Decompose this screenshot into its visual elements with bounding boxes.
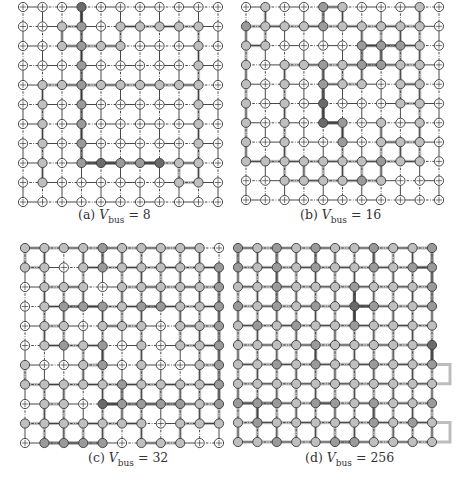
grid-node xyxy=(233,418,242,427)
grid-node xyxy=(427,437,436,446)
grid-node xyxy=(272,282,281,291)
grid-node xyxy=(369,263,378,272)
grid-node xyxy=(253,399,262,408)
grid-node xyxy=(330,263,339,272)
grid-node xyxy=(253,243,262,252)
grid-node xyxy=(233,437,242,446)
grid-node xyxy=(330,360,339,369)
grid-node xyxy=(350,321,359,330)
caption-value: = 8 xyxy=(128,207,150,222)
grid-node xyxy=(369,379,378,388)
grid-node xyxy=(389,399,398,408)
grid-node xyxy=(350,418,359,427)
grid-node xyxy=(253,282,262,291)
caption-sub: bus xyxy=(108,215,124,225)
grid-node xyxy=(253,437,262,446)
grid-node xyxy=(408,379,417,388)
caption-d: (d) Vbus = 256 xyxy=(305,450,394,468)
grid-node xyxy=(253,302,262,311)
grid-node xyxy=(292,437,301,446)
grid-node xyxy=(427,379,436,388)
grid-node xyxy=(272,243,281,252)
grid-node xyxy=(389,360,398,369)
grid-node xyxy=(233,302,242,311)
grid-node xyxy=(272,360,281,369)
caption-var: V xyxy=(322,207,331,222)
caption-value: = 32 xyxy=(138,450,168,465)
caption-sub: bus xyxy=(331,215,347,225)
grid-node xyxy=(292,321,301,330)
grid-node xyxy=(330,437,339,446)
grid-node xyxy=(330,379,339,388)
grid-node xyxy=(311,282,320,291)
grid-node xyxy=(427,243,436,252)
grid-node xyxy=(408,340,417,349)
grid-node xyxy=(292,263,301,272)
grid-node xyxy=(389,243,398,252)
grid-node xyxy=(292,399,301,408)
grid-node xyxy=(350,263,359,272)
caption-a: (a) Vbus = 8 xyxy=(78,207,151,225)
grid-node xyxy=(233,340,242,349)
grid-node xyxy=(292,360,301,369)
grid-node xyxy=(427,263,436,272)
grid-node xyxy=(408,321,417,330)
grid-node xyxy=(389,418,398,427)
grid-node xyxy=(330,399,339,408)
grid-graph xyxy=(0,0,472,488)
grid-node xyxy=(389,437,398,446)
grid-node xyxy=(311,340,320,349)
grid-node xyxy=(311,399,320,408)
grid-node xyxy=(369,321,378,330)
grid-node xyxy=(350,302,359,311)
grid-node xyxy=(311,418,320,427)
grid-node xyxy=(311,263,320,272)
grid-node xyxy=(427,321,436,330)
grid-node xyxy=(350,399,359,408)
caption-c: (c) Vbus = 32 xyxy=(88,450,168,468)
grid-node xyxy=(350,282,359,291)
grid-node xyxy=(311,302,320,311)
grid-node xyxy=(330,282,339,291)
grid-node xyxy=(369,243,378,252)
grid-node xyxy=(389,340,398,349)
grid-node xyxy=(272,399,281,408)
grid-node xyxy=(408,282,417,291)
caption-label: (a) xyxy=(78,207,95,222)
grid-node xyxy=(233,321,242,330)
grid-node xyxy=(253,360,262,369)
caption-var: V xyxy=(99,207,108,222)
grid-node xyxy=(408,302,417,311)
grid-node xyxy=(311,437,320,446)
grid-node xyxy=(233,399,242,408)
grid-node xyxy=(272,379,281,388)
grid-node xyxy=(427,282,436,291)
grid-node xyxy=(272,340,281,349)
grid-node xyxy=(253,379,262,388)
grid-node xyxy=(233,282,242,291)
caption-b: (b) Vbus = 16 xyxy=(300,207,381,225)
grid-node xyxy=(272,437,281,446)
grid-node xyxy=(350,437,359,446)
grid-node xyxy=(330,321,339,330)
grid-node xyxy=(311,360,320,369)
grid-node xyxy=(330,302,339,311)
grid-node xyxy=(233,379,242,388)
grid-node xyxy=(369,437,378,446)
grid-node xyxy=(408,360,417,369)
grid-node xyxy=(369,282,378,291)
grid-node xyxy=(253,263,262,272)
grid-node xyxy=(272,418,281,427)
grid-node xyxy=(427,302,436,311)
grid-node xyxy=(272,302,281,311)
grid-node xyxy=(272,263,281,272)
grid-node xyxy=(292,340,301,349)
grid-node xyxy=(253,418,262,427)
caption-value: = 256 xyxy=(356,450,394,465)
grid-node xyxy=(292,418,301,427)
grid-node xyxy=(253,340,262,349)
grid-node xyxy=(311,379,320,388)
caption-sub: bus xyxy=(336,458,352,468)
grid-node xyxy=(369,360,378,369)
caption-var: V xyxy=(327,450,336,465)
